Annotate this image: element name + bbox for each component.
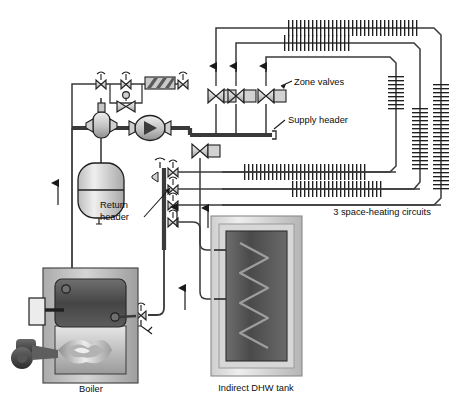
zone-valve-3[interactable] <box>258 89 286 103</box>
leader-return-header <box>144 188 170 217</box>
makeup-shutoff-valve-2[interactable] <box>121 72 131 89</box>
boiler <box>11 268 138 383</box>
makeup-water-assembly <box>72 72 188 128</box>
diagram-canvas: Zone valves Supply header Return header … <box>0 0 468 410</box>
fin-vert-inner <box>388 74 404 112</box>
air-separator <box>86 98 117 163</box>
return-header <box>152 158 165 250</box>
zone-valve-3-actuator <box>274 90 286 102</box>
label-indirect-dhw-tank: Indirect DHW tank <box>218 383 294 393</box>
makeup-shutoff-valve-1[interactable] <box>96 72 106 89</box>
label-boiler: Boiler <box>79 384 103 394</box>
makeup-shutoff-valve-3[interactable] <box>178 72 188 89</box>
fin-vert-middle <box>412 107 428 171</box>
boiler-return-connection <box>119 316 136 317</box>
supply-header <box>190 128 276 139</box>
dhw-zone-valve-actuator <box>208 145 220 157</box>
indirect-dhw-tank <box>211 216 302 376</box>
zone-valve-2-actuator <box>244 90 256 102</box>
fin-vert-outer <box>433 82 449 190</box>
circulator-pump <box>129 116 171 141</box>
fin-top-middle <box>283 35 351 51</box>
return-valve-2[interactable] <box>168 177 178 194</box>
boiler-supply-tapping <box>62 285 70 293</box>
boiler-return-pipe <box>148 250 164 315</box>
backflow-preventer <box>145 77 175 89</box>
label-supply-header: Supply header <box>288 115 348 125</box>
label-space-heating-circuits: 3 space-heating circuits <box>333 207 431 217</box>
leader-zone-valves <box>281 81 292 86</box>
leader-supply-header <box>274 120 285 129</box>
supply-header-end-cap <box>272 131 276 139</box>
label-return-header-line1: Return <box>100 200 128 210</box>
zone-valve-risers <box>216 104 266 135</box>
return-valve-1[interactable] <box>168 160 178 177</box>
hydronic-system-schematic: Zone valves Supply header Return header … <box>0 0 468 410</box>
fin-top-outer <box>288 20 418 36</box>
flow-arrows-supply <box>216 66 266 86</box>
label-return-header-line2: header <box>100 212 129 222</box>
pressure-reducing-valve[interactable] <box>117 92 135 112</box>
dhw-zone-valve[interactable] <box>192 144 220 158</box>
zone-valve-group <box>208 89 286 103</box>
label-zone-valves: Zone valves <box>294 77 344 87</box>
air-vent <box>98 103 105 112</box>
return-branch-dhw <box>178 222 214 299</box>
boiler-control-box <box>29 298 45 325</box>
boiler-return-tapping <box>111 313 119 321</box>
